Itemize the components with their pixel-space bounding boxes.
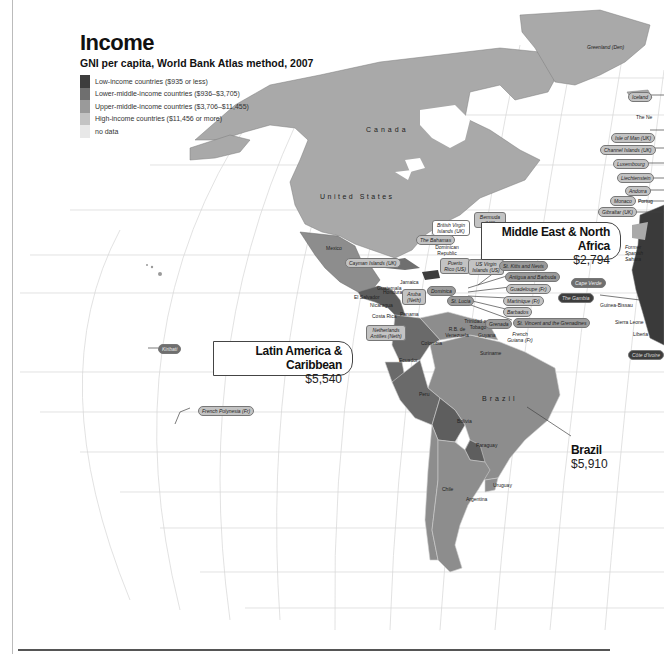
pill-cote-divoire: Côte d'Ivoire xyxy=(628,350,664,360)
callout-value: $5,540 xyxy=(220,372,342,386)
pill-iceland: Iceland xyxy=(628,92,652,102)
label-canada: Canada xyxy=(366,126,409,133)
legend-swatch-no-data xyxy=(80,125,90,138)
pill-channel-islands: Channel Islands (UK) xyxy=(600,145,656,155)
pill-bahamas: The Bahamas xyxy=(416,235,455,245)
label-french-guiana: French Guiana (Fr) xyxy=(505,331,535,343)
pill-liechtenstein: Liechtenstein xyxy=(617,173,654,183)
legend-item-no-data: no data xyxy=(80,125,249,138)
pill-antigua: Antigua and Barbuda xyxy=(505,272,560,282)
label-liberia: Liberia xyxy=(633,331,648,337)
legend-item-upper-middle: Upper-middle-income countries ($3,706–$1… xyxy=(80,100,249,113)
callout-name: Middle East & North Africa xyxy=(488,225,610,253)
label-suriname: Suriname xyxy=(480,350,501,356)
callout-name: Brazil xyxy=(571,443,608,457)
legend-label: High-income countries ($11,456 or more) xyxy=(95,115,222,122)
label-united-states: United States xyxy=(320,193,395,200)
legend: Low-income countries ($935 or less) Lowe… xyxy=(80,75,249,138)
label-portugal: Portug xyxy=(638,198,653,204)
pill-cape-verde: Cape Verde xyxy=(571,278,606,288)
label-mexico: Mexico xyxy=(326,245,342,251)
pill-martinique: Martinique (Fr) xyxy=(503,296,544,306)
label-argentina: Argentina xyxy=(466,496,487,502)
pill-french-polynesia: French Polynesia (Fr) xyxy=(198,406,254,416)
pill-dominica: Dominica xyxy=(427,286,456,296)
callout-brazil: Brazil $5,910 xyxy=(571,443,608,471)
label-former-spanish-sahara: Former Spanish Sahara xyxy=(625,244,655,262)
callout-name: Latin America & Caribbean xyxy=(220,344,342,372)
pill-cayman-islands: Cayman Islands (UK) xyxy=(345,258,401,268)
label-ecuador: Ecuador xyxy=(399,357,418,363)
legend-label: Low-income countries ($935 or less) xyxy=(95,78,208,85)
label-the-netherlands: The Ne xyxy=(636,114,652,120)
label-el-salvador: El Salvador xyxy=(354,294,380,300)
label-nicaragua: Nicaragua xyxy=(370,302,393,308)
pill-kiribati: Kiribati xyxy=(158,344,181,354)
pill-the-gambia: The Gambia xyxy=(558,293,594,303)
pill-netherlands-antilles: Netherlands Antilles (Neth) xyxy=(366,325,406,341)
pill-grenada: Grenada xyxy=(485,319,512,329)
pill-british-virgin-islands: British Virgin Islands (UK) xyxy=(432,220,470,236)
legend-label: Lower-middle-income countries ($936–$3,7… xyxy=(95,90,240,97)
bottom-rule xyxy=(18,649,610,651)
south-america-land xyxy=(385,312,560,572)
pill-barbados: Barbados xyxy=(503,307,532,317)
pill-st-vincent: St. Vincent and the Grenadines xyxy=(513,318,590,328)
label-panama: Panama xyxy=(400,311,419,317)
pill-aruba: Aruba (Neth) xyxy=(402,289,426,305)
pill-guadeloupe: Guadeloupe (Fr) xyxy=(506,284,551,294)
pill-luxembourg: Luxembourg xyxy=(613,159,649,169)
label-brazil: Brazil xyxy=(482,395,518,402)
label-guyana: Guyana xyxy=(478,332,496,338)
label-guinea-bissau: Guinea-Bissau xyxy=(600,302,633,308)
pill-isle-of-man: Isle of Man (UK) xyxy=(611,133,655,143)
pill-monaco: Monaco xyxy=(610,196,636,206)
legend-swatch-upper-middle xyxy=(80,100,90,113)
label-colombia: Colombia xyxy=(421,340,442,346)
label-uruguay: Uruguay xyxy=(493,482,512,488)
legend-label: no data xyxy=(95,128,118,135)
legend-swatch-low xyxy=(80,75,90,88)
pill-puerto-rico: Puerto Rico (US) xyxy=(440,258,470,274)
callout-value: $5,910 xyxy=(571,457,608,471)
legend-swatch-lower-middle xyxy=(80,88,90,101)
pill-gibraltar: Gibraltar (UK) xyxy=(598,207,637,217)
legend-swatch-high xyxy=(80,113,90,126)
hawaii-land xyxy=(146,264,162,276)
label-dominican-republic: Dominican Republic xyxy=(432,244,462,256)
label-greenland: Greenland (Den) xyxy=(587,44,624,50)
label-costa-rica: Costa Rica xyxy=(372,313,396,319)
pill-andorra: Andorra xyxy=(625,186,651,196)
legend-item-high: High-income countries ($11,456 or more) xyxy=(80,113,249,126)
page-subtitle: GNI per capita, World Bank Atlas method,… xyxy=(80,57,313,69)
label-jamaica: Jamaica xyxy=(400,279,419,285)
label-chile: Chile xyxy=(442,486,453,492)
pill-st-lucia: St. Lucia xyxy=(447,296,474,306)
callout-latin-america-caribbean: Latin America & Caribbean $5,540 xyxy=(213,341,353,376)
label-sierra-leone: Sierra Leone xyxy=(615,319,644,325)
legend-label: Upper-middle-income countries ($3,706–$1… xyxy=(95,103,249,110)
callout-value: $2,794 xyxy=(488,253,610,267)
callout-middle-east-north-africa: Middle East & North Africa $2,794 xyxy=(481,222,621,260)
label-bolivia: Bolivia xyxy=(457,418,472,424)
label-peru: Peru xyxy=(419,391,430,397)
page-title: Income xyxy=(80,30,154,56)
legend-item-low: Low-income countries ($935 or less) xyxy=(80,75,249,88)
legend-item-lower-middle: Lower-middle-income countries ($936–$3,7… xyxy=(80,88,249,101)
label-paraguay: Paraguay xyxy=(476,442,497,448)
